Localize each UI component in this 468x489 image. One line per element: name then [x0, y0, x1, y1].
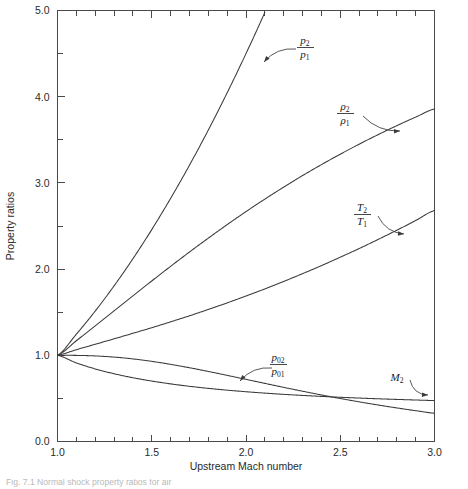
x-tick-label: 1.0	[50, 446, 65, 458]
y-axis-title: Property ratios	[4, 192, 16, 260]
y-tick-label: 2.0	[35, 263, 50, 275]
figure-caption-strip: Fig. 7.1 Normal shock property ratios fo…	[0, 479, 468, 489]
x-tick-label: 2.5	[333, 446, 348, 458]
normal-shock-property-ratios-chart: 0.01.02.03.04.05.0 1.01.52.02.53.0 Upstr…	[0, 0, 468, 489]
x-tick-label: 1.5	[144, 446, 159, 458]
y-tick-label: 4.0	[35, 91, 50, 103]
chart-background	[0, 0, 468, 489]
y-tick-label: 5.0	[35, 4, 50, 16]
x-tick-label: 3.0	[427, 446, 442, 458]
x-axis-title: Upstream Mach number	[190, 460, 303, 472]
y-tick-label: 1.0	[35, 349, 50, 361]
figure-root: 0.01.02.03.04.05.0 1.01.52.02.53.0 Upstr…	[0, 0, 468, 489]
y-tick-label: 3.0	[35, 177, 50, 189]
figure-caption: Fig. 7.1 Normal shock property ratios fo…	[6, 479, 171, 487]
y-tick-label: 0.0	[35, 435, 50, 447]
x-tick-label: 2.0	[239, 446, 254, 458]
